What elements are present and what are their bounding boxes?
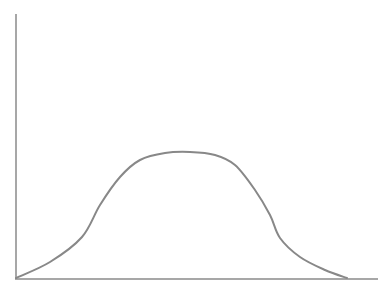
chart-canvas <box>0 0 387 288</box>
bell-curve-line <box>16 152 347 278</box>
